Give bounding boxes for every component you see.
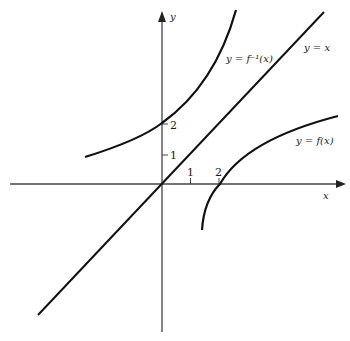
x-axis-label: x xyxy=(323,190,329,201)
y-axis-label: y xyxy=(169,11,176,22)
x-axis-arrow-icon xyxy=(336,180,346,188)
y-tick-label-1: 1 xyxy=(170,149,177,162)
x-tick-label-1: 1 xyxy=(187,166,194,179)
y-tick-label-2: 2 xyxy=(170,119,177,132)
x-axis: x 1 2 xyxy=(10,166,346,201)
inverse-function-label: y = f⁻¹(x) xyxy=(225,53,273,64)
identity-line: y = x xyxy=(38,12,330,315)
inverse-function-curve: y = f⁻¹(x) xyxy=(85,10,273,157)
identity-label: y = x xyxy=(303,42,330,53)
function-inverse-diagram: x 1 2 y 1 2 y = x y = f⁻¹(x) xyxy=(0,0,350,341)
function-curve: y = f(x) xyxy=(202,116,338,230)
y-axis-arrow-icon xyxy=(158,11,166,22)
diagram-canvas: x 1 2 y 1 2 y = x y = f⁻¹(x) xyxy=(0,0,350,341)
function-label: y = f(x) xyxy=(295,135,334,146)
x-tick-label-2: 2 xyxy=(215,166,222,179)
